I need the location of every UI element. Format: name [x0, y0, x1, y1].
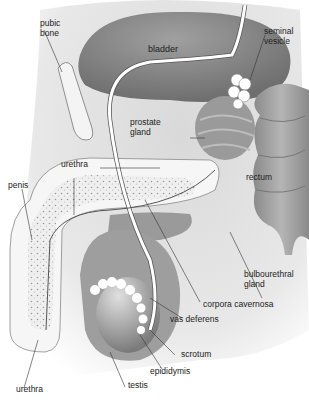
- label-vas-deferens: vas deferens: [170, 315, 219, 325]
- label-urethra-upper: urethra: [61, 160, 88, 170]
- label-urethra-lower: urethra: [16, 385, 43, 395]
- label-seminal-vesicle: seminal vesicle: [264, 27, 293, 46]
- anatomy-illustration: [0, 0, 309, 403]
- label-testis: testis: [128, 381, 148, 391]
- anatomy-diagram: pubic bone bladder seminal vesicle prost…: [0, 0, 309, 403]
- label-prostate-gland: prostate gland: [130, 118, 161, 137]
- label-epididymis: epididymis: [150, 367, 190, 377]
- label-pubic-bone: pubic bone: [40, 19, 60, 38]
- label-bladder: bladder: [148, 45, 178, 55]
- label-rectum: rectum: [246, 173, 272, 183]
- label-corpora-cavernosa: corpora cavernosa: [203, 300, 273, 310]
- label-scrotum: scrotum: [181, 350, 211, 360]
- prostate-shape: [195, 96, 255, 160]
- label-bulbourethral-gland: bulbourethral gland: [244, 270, 294, 289]
- label-penis: penis: [8, 181, 28, 191]
- bladder-shape: [78, 12, 290, 102]
